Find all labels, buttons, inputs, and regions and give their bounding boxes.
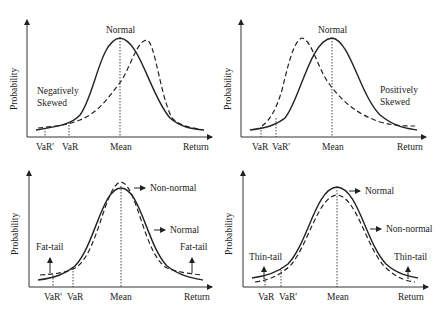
xtick-var: VaR [258,292,275,302]
annotation-line1: Negatively [37,86,79,96]
xtick-mean: Mean [110,292,132,302]
y-axis-label: Probability [224,213,234,255]
skewed-curve [38,40,200,129]
normal-label: Normal [106,25,135,35]
panel-negatively-skewed: Probability Normal Negatively Skewed VaR… [9,20,212,152]
xtick-var-prime: VaR' [272,142,290,152]
xtick-mean: Mean [322,142,344,152]
xtick-var-prime: VaR' [36,142,54,152]
left-tail-label: Thin-tail [249,252,283,262]
right-tail-label: Fat-tail [180,242,208,252]
xtick-return: Return [183,142,209,152]
xtick-mean: Mean [110,142,132,152]
annotation-line2: Skewed [37,98,67,108]
y-axis-label: Probability [9,68,19,110]
xtick-var: VaR [67,292,84,302]
normal-label: Normal [365,186,394,196]
xtick-return: Return [398,292,424,302]
skewed-curve [262,38,415,126]
panel-thin-tail: Probability Normal Non-normal Thin-tail … [224,171,433,302]
xtick-var-prime: VaR' [279,292,297,302]
xtick-var: VaR [252,142,269,152]
annotation-line2: Skewed [380,97,410,107]
xtick-var: VaR [62,142,79,152]
xtick-var-prime: VaR' [44,292,62,302]
non-normal-curve [255,195,415,282]
y-axis-label: Probability [223,68,233,110]
y-axis-label: Probability [10,213,20,255]
xtick-return: Return [184,292,210,302]
xtick-return: Return [397,142,423,152]
xtick-mean: Mean [327,292,349,302]
annotation-line1: Positively [380,85,418,95]
non-normal-label: Non-normal [386,224,433,234]
non-normal-label: Non-normal [150,183,197,193]
normal-label: Normal [170,225,199,235]
panel-positively-skewed: Probability Normal Positively Skewed VaR… [223,20,426,152]
normal-label: Normal [318,25,347,35]
left-tail-label: Fat-tail [36,242,64,252]
normal-curve [250,38,417,130]
right-tail-label: Thin-tail [394,252,428,262]
panel-fat-tail: Probability Non-normal Normal Fat-tail F… [10,171,212,302]
distribution-diagram: Probability Normal Negatively Skewed VaR… [0,0,444,316]
